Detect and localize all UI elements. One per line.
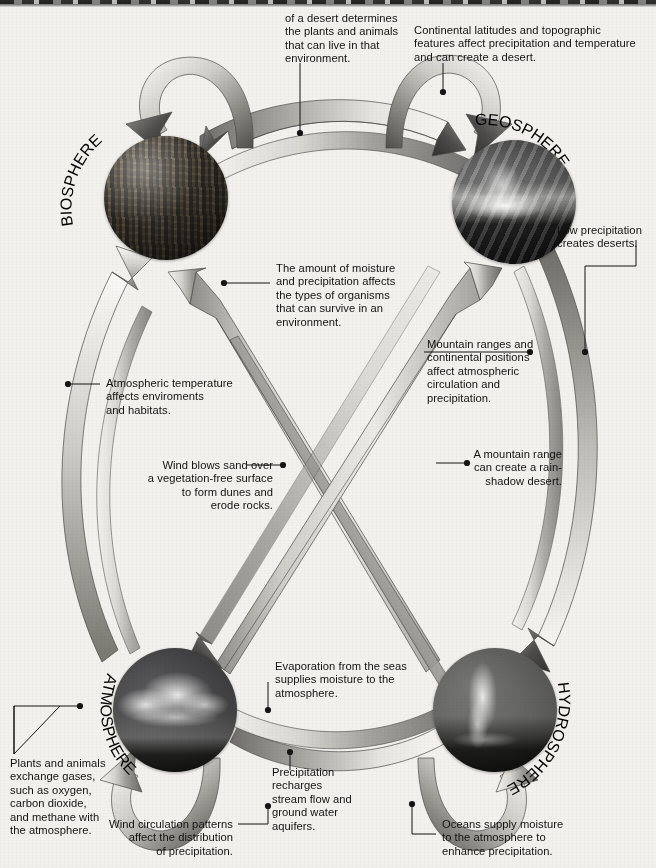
caption-atmospheric-temperature: Atmospheric temperature affects envirome… [106, 377, 276, 417]
sphere-atmosphere [113, 648, 237, 772]
caption-rain-shadow: A mountain range can create a rain- shad… [437, 448, 562, 488]
caption-oceans-supply: Oceans supply moisture to the atmosphere… [442, 818, 622, 858]
biosphere-shading [104, 136, 228, 260]
arrow-artwork: BIOSPHERE GEOSPHERE ATMOSPHERE HYDROSPHE… [0, 0, 656, 868]
hydrosphere-shading [433, 648, 557, 772]
sphere-hydrosphere [433, 648, 557, 772]
sphere-biosphere [104, 136, 228, 260]
caption-amount-of-moisture: The amount of moisture and precipitation… [276, 262, 426, 329]
diagram-canvas: BIOSPHERE GEOSPHERE ATMOSPHERE HYDROSPHE… [0, 0, 656, 868]
caption-low-precipitation: Low precipitation creates deserts. [557, 224, 656, 251]
caption-precipitation-recharges: Precipitation recharges stream flow and … [272, 766, 377, 833]
caption-mountain-ranges: Mountain ranges and continental position… [427, 338, 577, 405]
arrow-geosphere-to-hydrosphere [536, 244, 597, 646]
caption-evaporation: Evaporation from the seas supplies moist… [275, 660, 440, 700]
caption-top-left: of a desert determines the plants and an… [285, 12, 435, 66]
caption-wind-blows-sand: Wind blows sand over a vegetation-free s… [108, 459, 273, 513]
sphere-label-biosphere: BIOSPHERE [57, 131, 104, 227]
caption-top-right: Continental latitudes and topographic fe… [414, 24, 654, 64]
atmosphere-shading [113, 648, 237, 772]
caption-wind-circulation: Wind circulation patterns affect the dis… [88, 818, 233, 858]
